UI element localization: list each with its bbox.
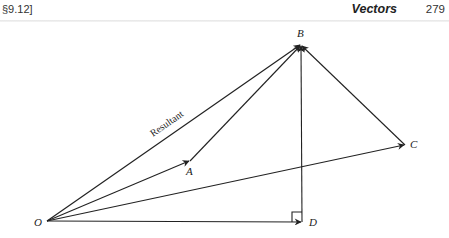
- vector-d-b: [301, 46, 302, 222]
- vector-o-c: [47, 145, 404, 221]
- point-label-o: O: [34, 216, 42, 228]
- vector-a-b: [190, 46, 300, 161]
- point-label-c: C: [410, 138, 418, 150]
- point-label-b: B: [297, 27, 304, 39]
- vector-o-d: [47, 221, 301, 222]
- point-label-d: D: [308, 216, 317, 228]
- vector-o-a: [47, 161, 189, 221]
- vector-c-b: [302, 46, 405, 145]
- right-angle-marker: [292, 212, 302, 222]
- point-label-a: A: [185, 165, 193, 177]
- resultant-label: Resultant: [148, 108, 185, 139]
- vector-diagram: B A C D O Resultant: [0, 0, 449, 238]
